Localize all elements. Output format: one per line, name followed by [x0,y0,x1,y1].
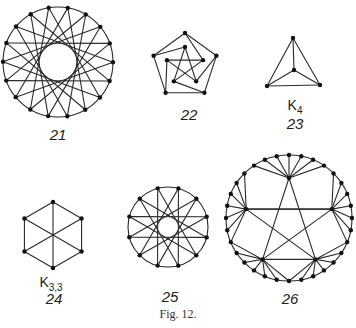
edge [16,26,67,116]
vertex [79,216,83,220]
vertex [176,263,180,267]
graph-25 [127,186,209,268]
vertex [252,268,256,272]
edge [49,8,100,98]
vertex [252,163,256,167]
vertex [163,90,167,94]
vertex [65,114,69,118]
vertex [156,186,160,190]
graph-22 [151,31,218,95]
vertex [311,274,315,278]
edge [246,209,315,259]
vertex [331,260,335,264]
graph-label-23: 23 [275,115,315,132]
edge [140,199,207,238]
vertex [172,79,176,83]
vertex [137,253,141,257]
vertex [224,216,228,220]
edge [154,47,185,56]
edge [332,209,351,230]
edge [24,252,53,269]
vertex [194,79,198,83]
edge [154,56,166,93]
edge [174,47,185,81]
vertex [107,79,111,83]
edge [227,209,246,230]
edge [140,199,179,266]
edge [293,38,320,85]
vertex [331,171,335,175]
vertex [204,235,208,239]
edge [48,27,100,116]
vertex [46,114,50,118]
vertex [138,196,142,200]
vertex [84,12,88,16]
vertex [202,90,206,94]
vertex [275,278,279,282]
edge [140,188,179,255]
vertex [260,257,264,261]
vertex [98,25,102,29]
vertex [83,108,87,112]
vertex [345,192,349,196]
vertex [46,6,50,10]
graph-label-22: 22 [169,106,209,123]
edge [267,85,320,86]
edge [166,60,167,93]
vertex [183,31,187,35]
vertex [28,107,32,111]
vertex [291,36,295,40]
vertex [127,214,131,218]
edge [24,202,53,219]
vertex [242,260,246,264]
vertex [204,215,208,219]
edge [263,178,289,259]
edge [185,33,216,56]
edge [254,166,289,178]
vertex [194,197,198,201]
graph-24-k33 [22,200,84,270]
vertex [51,200,55,204]
vertex [111,60,115,64]
vertex [51,266,55,270]
vertex [14,95,18,99]
graph-21 [1,6,115,119]
vertex [155,263,159,267]
vertex [242,171,246,175]
vertex [4,41,8,45]
vertex [330,207,334,211]
vertex [66,6,70,10]
graph-23-k4 [265,36,322,88]
k4-base: K [288,97,297,113]
vertex [234,251,238,255]
vertex [194,253,198,257]
vertex [265,84,269,88]
vertex [225,204,229,208]
vertex [225,228,229,232]
graph-label-21: 21 [38,126,78,143]
vertex [349,204,353,208]
edge [332,209,347,242]
graph-label-26: 26 [270,290,310,307]
edge [129,217,196,256]
edge [289,160,313,178]
edge [16,8,68,97]
vertex [263,158,267,162]
vertex [234,181,238,185]
vertex [311,158,315,162]
vertex [339,181,343,185]
vertex [176,186,180,190]
vertex [322,268,326,272]
graph-label-24: 24 [34,290,74,307]
vertex [299,154,303,158]
edge [204,56,216,93]
vertex [22,249,26,253]
edge [263,209,332,259]
vertex [127,235,131,239]
edge [154,33,185,56]
edge [174,81,205,92]
edge [289,166,324,178]
vertex [229,192,233,196]
vertex [287,153,291,157]
vertex [350,216,354,220]
